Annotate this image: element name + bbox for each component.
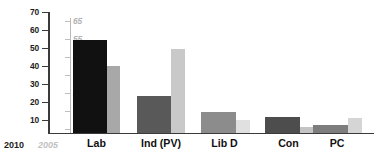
tick-label-2010-70: 70 (30, 8, 39, 16)
axis-name-2005: 2005 (38, 140, 58, 150)
tick-2010-30 (42, 84, 49, 85)
tick-2005-5 (65, 129, 71, 130)
tick-2010-70 (42, 12, 49, 13)
bar-2005-pc (348, 118, 362, 133)
tick-2005-55 (65, 39, 71, 40)
bar-2010-ind-pv (137, 96, 171, 133)
tick-2005-15 (65, 111, 71, 112)
tick-2005-25 (65, 93, 71, 94)
tick-2005-35 (65, 75, 71, 76)
tick-label-2010-60: 60 (30, 26, 39, 34)
axis-name-2010: 2010 (4, 140, 24, 150)
tick-2010-20 (42, 102, 49, 103)
tick-2010-60 (42, 30, 49, 31)
bar-2005-ind-pv (171, 49, 185, 133)
category-label-ind-pv: Ind (PV) (133, 137, 189, 149)
tick-2010-50 (42, 48, 49, 49)
bar-chart: 70 60 50 40 30 20 10 65 55 45 35 25 15 5… (0, 0, 376, 160)
category-label-con: Con (263, 137, 314, 149)
category-label-pc: PC (312, 137, 362, 149)
bar-2010-pc (313, 125, 348, 133)
tick-2010-10 (42, 120, 49, 121)
category-label-lab: Lab (73, 137, 120, 149)
tick-label-2010-30: 30 (30, 80, 39, 88)
bar-2005-lib-d (236, 120, 250, 133)
tick-2005-65 (65, 21, 71, 22)
category-label-lib-d: Lib D (199, 137, 250, 149)
bar-2005-con (300, 127, 314, 133)
bar-2010-lib-d (201, 112, 236, 133)
tick-2010-40 (42, 66, 49, 67)
x-axis-baseline (48, 133, 374, 135)
bar-2010-con (265, 117, 300, 133)
tick-label-2010-40: 40 (30, 62, 39, 70)
tick-2005-45 (65, 57, 71, 58)
tick-label-2010-20: 20 (30, 98, 39, 106)
tick-label-2010-50: 50 (30, 44, 39, 52)
tick-label-2010-10: 10 (30, 116, 39, 124)
bar-2010-lab (73, 40, 107, 133)
bar-2005-lab (107, 66, 120, 133)
tick-label-2005-65: 65 (73, 17, 82, 25)
